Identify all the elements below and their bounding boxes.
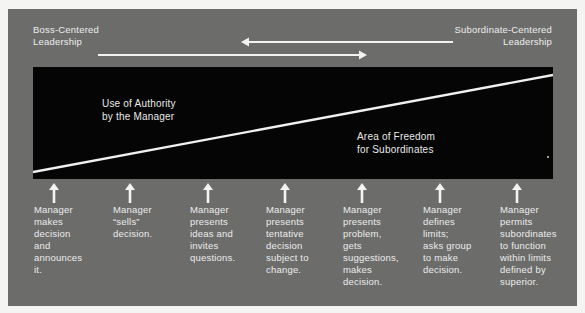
behavior-text-line: decision. — [423, 264, 501, 276]
behavior-column-7: Managerpermitssubordinatesto functionwit… — [500, 183, 578, 288]
speck — [547, 156, 549, 158]
freedom-line1: Area of Freedom — [357, 130, 435, 143]
behavior-description: Managerpermitssubordinatesto functionwit… — [500, 204, 578, 288]
behavior-text-line: presents — [266, 216, 344, 228]
behavior-column-2: Manager“sells”decision. — [113, 183, 191, 240]
authority-line1: Use of Authority — [102, 97, 176, 110]
behavior-description: Managerpresentsideas andinvitesquestions… — [190, 204, 268, 264]
behavior-text-line: “sells” — [113, 216, 191, 228]
behavior-text-line: decision. — [343, 276, 421, 288]
authority-freedom-area — [33, 67, 553, 179]
behavior-text-line: it. — [34, 264, 112, 276]
behavior-text-line: Manager — [113, 204, 191, 216]
freedom-line2: for Subordinates — [357, 143, 435, 156]
behavior-text-line: decision — [34, 228, 112, 240]
boss-centered-label: Boss-Centered Leadership — [33, 24, 99, 48]
boss-centered-line2: Leadership — [33, 36, 99, 48]
up-arrow-icon — [279, 183, 291, 203]
up-arrow-icon — [511, 183, 523, 203]
behavior-text-line: within limits — [500, 252, 578, 264]
behavior-text-line: and — [34, 240, 112, 252]
authority-line2: by the Manager — [102, 110, 176, 123]
behavior-text-line: announces — [34, 252, 112, 264]
behavior-text-line: defines — [423, 216, 501, 228]
behavior-text-line: Manager — [500, 204, 578, 216]
behavior-description: Managerpresentsproblem,getssuggestions,m… — [343, 204, 421, 288]
up-arrow-icon — [124, 183, 136, 203]
behavior-text-line: change. — [266, 264, 344, 276]
behavior-text-line: asks group — [423, 240, 501, 252]
behavior-text-line: ideas and — [190, 228, 268, 240]
behavior-text-line: problem, — [343, 228, 421, 240]
behavior-text-line: makes — [343, 264, 421, 276]
behavior-text-line: subject to — [266, 252, 344, 264]
behavior-text-line: limits; — [423, 228, 501, 240]
behavior-column-6: Managerdefineslimits;asks groupto makede… — [423, 183, 501, 276]
area-of-freedom-label: Area of Freedom for Subordinates — [357, 130, 435, 156]
behavior-text-line: permits — [500, 216, 578, 228]
use-of-authority-label: Use of Authority by the Manager — [102, 97, 176, 123]
behavior-text-line: defined by — [500, 264, 578, 276]
up-arrow-icon — [356, 183, 368, 203]
behavior-text-line: Manager — [343, 204, 421, 216]
behavior-text-line: subordinates — [500, 228, 578, 240]
behavior-column-3: Managerpresentsideas andinvitesquestions… — [190, 183, 268, 264]
behavior-text-line: Manager — [266, 204, 344, 216]
behavior-column-1: Managermakesdecisionandannouncesit. — [34, 183, 112, 276]
subordinate-centered-line2: Leadership — [455, 36, 552, 48]
subordinate-centered-line1: Subordinate-Centered — [455, 24, 552, 36]
behavior-text-line: invites — [190, 240, 268, 252]
behavior-text-line: tentative — [266, 228, 344, 240]
behavior-text-line: to make — [423, 252, 501, 264]
behavior-text-line: questions. — [190, 252, 268, 264]
up-arrow-icon — [434, 183, 446, 203]
behavior-description: Managerpresentstentativedecisionsubject … — [266, 204, 344, 276]
behavior-description: Managerdefineslimits;asks groupto makede… — [423, 204, 501, 276]
behavior-text-line: superior. — [500, 276, 578, 288]
behavior-text-line: decision — [266, 240, 344, 252]
behavior-column-4: Managerpresentstentativedecisionsubject … — [266, 183, 344, 276]
behavior-text-line: Manager — [34, 204, 112, 216]
authority-divider-line — [33, 67, 553, 179]
behavior-text-line: Manager — [190, 204, 268, 216]
behavior-description: Managermakesdecisionandannouncesit. — [34, 204, 112, 276]
behavior-text-line: presents — [190, 216, 268, 228]
behavior-text-line: Manager — [423, 204, 501, 216]
behavior-text-line: presents — [343, 216, 421, 228]
behavior-text-line: decision. — [113, 228, 191, 240]
behavior-text-line: makes — [34, 216, 112, 228]
behavior-text-line: to function — [500, 240, 578, 252]
behavior-text-line: gets — [343, 240, 421, 252]
up-arrow-icon — [202, 183, 214, 203]
boss-centered-line1: Boss-Centered — [33, 24, 99, 36]
behavior-description: Manager“sells”decision. — [113, 204, 191, 240]
behavior-column-5: Managerpresentsproblem,getssuggestions,m… — [343, 183, 421, 288]
subordinate-centered-label: Subordinate-Centered Leadership — [455, 24, 552, 48]
behavior-text-line: suggestions, — [343, 252, 421, 264]
up-arrow-icon — [48, 183, 60, 203]
